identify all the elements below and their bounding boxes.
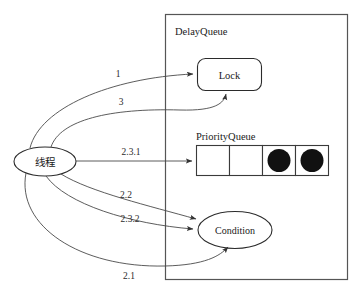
edge-2-1-label: 2.1 bbox=[123, 271, 135, 281]
diagram-canvas: DelayQueue Lock PriorityQueue Condition … bbox=[0, 0, 361, 293]
edge-2-3-1-label: 2.3.1 bbox=[122, 147, 141, 157]
edge-2-3-2-label: 2.3.2 bbox=[121, 214, 140, 224]
thread-node-label: 线程 bbox=[35, 156, 56, 168]
priorityqueue-cells bbox=[197, 146, 329, 176]
queue-item-dot bbox=[301, 149, 324, 172]
delayqueue-title: DelayQueue bbox=[175, 26, 228, 37]
edge-3-label: 3 bbox=[119, 97, 124, 107]
priorityqueue-label: PriorityQueue bbox=[196, 131, 256, 142]
condition-node-label: Condition bbox=[215, 225, 255, 236]
queue-item-dot bbox=[268, 149, 291, 172]
queue-cell bbox=[197, 146, 230, 176]
lock-node-label: Lock bbox=[219, 70, 241, 81]
delayqueue-diagram: DelayQueue Lock PriorityQueue Condition … bbox=[0, 0, 361, 293]
queue-cell bbox=[230, 146, 263, 176]
edge-1-label: 1 bbox=[116, 69, 121, 79]
edge-2-2-label: 2.2 bbox=[120, 190, 132, 200]
